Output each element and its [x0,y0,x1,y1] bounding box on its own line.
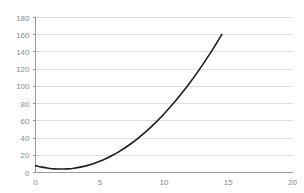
chart-container: 020406080100120140160180 05101520 [0,0,304,193]
data-series [36,35,222,170]
y-axis-tick-label: 140 [16,48,30,57]
x-axis-tick-label: 0 [33,178,38,187]
y-axis-tick-label: 40 [21,134,30,143]
x-axis-tick-label: 20 [288,178,297,187]
gridlines [36,18,293,156]
series-line [36,35,222,170]
y-axis-tick-label: 100 [16,82,30,91]
y-axis-tick-label: 120 [16,65,30,74]
chart-plot: 020406080100120140160180 05101520 [0,0,304,193]
x-axis-tick-labels: 05101520 [33,178,297,187]
y-axis-tick-labels: 020406080100120140160180 [16,14,30,178]
y-axis-tick-label: 160 [16,31,30,40]
y-axis-tick-label: 0 [25,169,30,178]
x-axis-tick-label: 5 [98,178,103,187]
y-axis-tick-label: 80 [21,100,30,109]
x-axis-tick-label: 15 [224,178,233,187]
y-axis-tick-label: 20 [21,151,30,160]
y-axis-tick-label: 180 [16,14,30,23]
x-axis-tick-label: 10 [160,178,169,187]
y-axis [33,18,36,173]
y-axis-tick-label: 60 [21,117,30,126]
